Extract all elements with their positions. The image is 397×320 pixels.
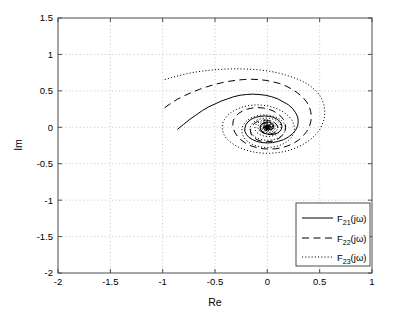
- y-tick-label: -0.5: [37, 158, 53, 169]
- x-tick-label: 1: [369, 276, 374, 287]
- y-tick-label: -2: [45, 267, 53, 278]
- x-tick-label: 0: [265, 276, 270, 287]
- legend-label-23[interactable]: F23(jω): [337, 252, 366, 265]
- x-tick-label: -0.5: [207, 276, 223, 287]
- y-axis-title: Im: [12, 139, 24, 151]
- y-tick-label: -1.5: [37, 231, 53, 242]
- x-tick-label: -2: [54, 276, 62, 287]
- y-tick-label: 1.5: [40, 12, 53, 23]
- x-tick-label: -1.5: [102, 276, 118, 287]
- y-tick-label: 0.5: [40, 85, 53, 96]
- figure-background: [0, 0, 397, 320]
- x-tick-label: 0.5: [313, 276, 326, 287]
- y-tick-label: -1: [45, 195, 53, 206]
- y-tick-label: 1: [48, 49, 53, 60]
- legend-label-21[interactable]: F21(jω): [337, 213, 366, 226]
- nyquist-plot-figure: -2-1.5-1-0.500.51 1.510.50-0.5-1-1.5-2 R…: [0, 0, 397, 320]
- legend[interactable]: F21(jω)F22(jω)F23(jω): [296, 203, 370, 266]
- x-axis-title: Re: [208, 296, 222, 308]
- legend-label-22[interactable]: F22(jω): [337, 233, 366, 246]
- y-tick-label: 0: [48, 122, 53, 133]
- x-tick-label: -1: [158, 276, 166, 287]
